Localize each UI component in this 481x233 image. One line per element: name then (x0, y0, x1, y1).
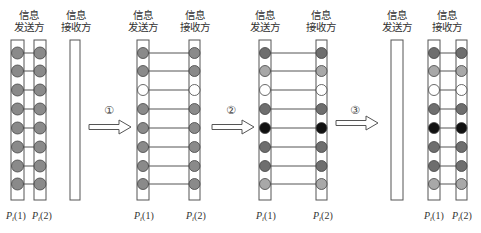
label-line: 发送方 (245, 21, 285, 33)
label-line: 发送方 (377, 21, 417, 33)
photon-ball (12, 141, 24, 153)
p-arg: (2) (40, 210, 52, 221)
photon-ball (456, 123, 467, 134)
panel2-p2-label: Pi(2) (186, 210, 206, 223)
photon-ball (12, 160, 24, 172)
photon-ball (138, 161, 149, 172)
panel-after-step-3 (391, 40, 467, 200)
photon-ball (12, 103, 24, 115)
photon-ball (316, 123, 327, 134)
photon-ball (260, 161, 271, 172)
photon-ball (429, 142, 440, 153)
label-line: 信息 (245, 9, 285, 21)
sender-strip (391, 40, 403, 200)
receiver-strip (70, 40, 80, 200)
quantum-teleportation-diagram (0, 0, 481, 233)
receiver-strip-p1 (428, 40, 440, 200)
panel3-p2-label: Pi(2) (313, 210, 333, 223)
photon-ball (34, 122, 46, 134)
label-line: 接收方 (301, 21, 341, 33)
step-3-arrow-icon (336, 116, 378, 130)
step-1-label: ① (104, 104, 114, 117)
photon-ball (456, 142, 467, 153)
panel-after-step-1 (137, 40, 200, 200)
photon-ball (260, 48, 271, 59)
photon-ball (456, 85, 467, 96)
photon-ball (12, 84, 24, 96)
photon-ball (138, 48, 149, 59)
photon-ball (456, 48, 467, 59)
photon-ball (429, 66, 440, 77)
receiver-strip (189, 40, 200, 200)
photon-ball (429, 123, 440, 134)
label-line: 信息 (9, 9, 49, 21)
photon-ball (34, 47, 46, 59)
sender-strip (137, 40, 149, 200)
panel1-sender-label: 信息 发送方 (9, 9, 49, 33)
panel1-p2-label: Pi(2) (32, 210, 52, 223)
photon-ball (189, 66, 200, 77)
panel4-receiver-label: 信息 接收方 (427, 9, 467, 33)
label-line: 发送方 (123, 21, 163, 33)
photon-ball (316, 179, 327, 190)
photon-ball (34, 178, 46, 190)
label-line: 信息 (301, 9, 341, 21)
photon-ball (429, 179, 440, 190)
sender-strip (259, 40, 271, 200)
photon-ball (189, 142, 200, 153)
photon-ball (34, 141, 46, 153)
step-1-arrow-icon (89, 120, 131, 134)
photon-ball (189, 161, 200, 172)
label-line: 信息 (123, 9, 163, 21)
photon-ball (189, 179, 200, 190)
panel4-p1-label: Pi(1) (424, 210, 444, 223)
p-arg: (2) (460, 210, 472, 221)
p-arg: (2) (194, 210, 206, 221)
step-2-label: ② (226, 104, 236, 117)
photon-ball (34, 103, 46, 115)
label-line: 接收方 (175, 21, 215, 33)
label-line: 信息 (427, 9, 467, 21)
photon-ball (138, 123, 149, 134)
photon-ball (429, 104, 440, 115)
panel3-p1-label: Pi(1) (256, 210, 276, 223)
label-line: 发送方 (9, 21, 49, 33)
photon-ball (260, 179, 271, 190)
panel-after-step-2 (259, 40, 327, 200)
p-arg: (2) (321, 210, 333, 221)
photon-ball (34, 65, 46, 77)
photon-ball (429, 48, 440, 59)
photon-ball (260, 142, 271, 153)
label-line: 接收方 (427, 21, 467, 33)
label-line: 接收方 (56, 21, 96, 33)
label-line: 信息 (175, 9, 215, 21)
panel2-receiver-label: 信息 接收方 (175, 9, 215, 33)
photon-ball (189, 85, 200, 96)
photon-ball (316, 66, 327, 77)
p-arg: (1) (142, 210, 154, 221)
photon-ball (316, 85, 327, 96)
step-3-label: ③ (350, 104, 360, 117)
photon-ball (12, 65, 24, 77)
p-arg: (1) (264, 210, 276, 221)
photon-ball (138, 104, 149, 115)
photon-ball (316, 161, 327, 172)
p-arg: (1) (432, 210, 444, 221)
photon-ball (260, 66, 271, 77)
panel1-receiver-label: 信息 接收方 (56, 9, 96, 33)
photon-ball (12, 47, 24, 59)
receiver-strip (316, 40, 327, 200)
panel1-p1-label: Pi(1) (6, 210, 26, 223)
p-arg: (1) (14, 210, 26, 221)
photon-ball (429, 161, 440, 172)
photon-ball (138, 66, 149, 77)
photon-ball (12, 178, 24, 190)
label-line: 信息 (56, 9, 96, 21)
photon-ball (429, 85, 440, 96)
photon-ball (138, 179, 149, 190)
photon-ball (260, 123, 271, 134)
photon-ball (316, 142, 327, 153)
label-line: 信息 (377, 9, 417, 21)
panel2-sender-label: 信息 发送方 (123, 9, 163, 33)
photon-ball (12, 122, 24, 134)
